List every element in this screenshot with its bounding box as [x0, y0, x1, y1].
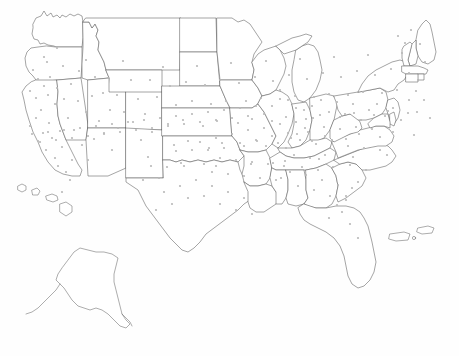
map-data-dot [199, 121, 201, 123]
map-data-dot [263, 127, 265, 129]
map-data-dot [285, 116, 287, 118]
map-data-dot [317, 169, 319, 171]
map-data-dot [225, 100, 227, 102]
map-data-dot [358, 133, 360, 135]
us-map-figure [0, 0, 459, 356]
map-data-dot [404, 42, 406, 44]
map-data-dot [191, 149, 193, 151]
map-data-dot [321, 179, 323, 181]
map-data-dot [390, 68, 392, 70]
map-data-dot [71, 159, 73, 161]
map-data-dot [109, 109, 111, 111]
map-data-dot [79, 127, 81, 129]
map-data-dot [210, 103, 212, 105]
map-data-dot [265, 145, 267, 147]
map-data-dot [175, 115, 177, 117]
map-data-dot [328, 93, 330, 95]
hawaii-outline-group [18, 184, 72, 216]
map-data-dot [407, 112, 409, 114]
map-data-dot [166, 166, 168, 168]
map-data-dot [357, 237, 359, 239]
map-data-dot [91, 95, 93, 97]
map-data-dot [56, 47, 58, 49]
map-data-dot [254, 76, 256, 78]
state-oregon [25, 46, 82, 82]
map-data-dot [143, 119, 145, 121]
map-data-dot [318, 158, 320, 160]
map-data-dot [223, 147, 225, 149]
map-data-dot [352, 103, 354, 105]
map-data-dot [39, 141, 41, 143]
map-data-dot [333, 56, 335, 58]
map-data-dot [35, 97, 37, 99]
map-data-dot [305, 118, 307, 120]
map-data-dot [297, 185, 299, 187]
map-data-dot [191, 100, 193, 102]
map-data-dot [320, 99, 322, 101]
state-arizona [86, 128, 126, 176]
map-data-dot [365, 169, 367, 171]
map-data-dot [345, 199, 347, 201]
map-data-dot [413, 134, 415, 136]
map-data-dot [239, 142, 241, 144]
map-data-dot [71, 137, 73, 139]
map-data-dot [130, 79, 132, 81]
map-data-dot [238, 82, 240, 84]
map-data-dot [183, 165, 185, 167]
map-data-dot [345, 138, 347, 140]
map-data-dot [37, 140, 39, 142]
map-data-dot [149, 79, 151, 81]
map-data-dot [111, 149, 113, 151]
map-data-dot [94, 76, 96, 78]
map-data-dot [275, 179, 277, 181]
map-data-dot [142, 179, 144, 181]
map-data-dot [387, 110, 389, 112]
map-data-dot [340, 76, 342, 78]
state-maine [416, 20, 436, 64]
map-data-dot [59, 130, 61, 132]
map-data-dot [239, 107, 241, 109]
map-data-dot [69, 179, 71, 181]
map-data-dot [319, 114, 321, 116]
map-data-dot [227, 173, 229, 175]
map-data-dot [341, 211, 343, 213]
state-north-dakota [180, 18, 217, 52]
map-data-dot [179, 185, 181, 187]
map-data-dot [396, 89, 398, 91]
map-data-dot [151, 127, 153, 129]
map-data-dot [70, 83, 72, 85]
map-data-dot [211, 185, 213, 187]
map-data-dot [35, 117, 37, 119]
map-data-dot [67, 117, 69, 119]
map-data-dot [353, 112, 355, 114]
map-data-dot [277, 142, 279, 144]
map-data-dot [85, 111, 87, 113]
map-data-dot [150, 165, 152, 167]
map-data-dot [415, 90, 417, 92]
map-data-dot [81, 144, 83, 146]
map-data-dot [419, 43, 421, 45]
map-data-dot [187, 140, 189, 142]
map-data-dot [207, 111, 209, 113]
state-oklahoma [163, 136, 244, 162]
map-data-dot [147, 156, 149, 158]
map-data-dot [392, 131, 394, 133]
map-data-dot [332, 166, 334, 168]
map-data-dot [397, 35, 399, 37]
alaska-aleutian-chain [26, 284, 60, 314]
map-data-dot [272, 162, 274, 164]
map-data-dot [221, 142, 223, 144]
map-data-dot [37, 78, 39, 80]
map-data-dot [384, 115, 386, 117]
map-data-dot [283, 165, 285, 167]
map-data-dot [199, 141, 201, 143]
state-new-mexico [126, 128, 163, 178]
map-data-dot [356, 70, 358, 72]
state-florida [298, 204, 376, 288]
map-data-dot [386, 154, 388, 156]
map-data-dot [376, 103, 378, 105]
map-data-dot [285, 147, 287, 149]
map-data-dot [352, 156, 354, 158]
map-data-dot [196, 65, 198, 67]
map-data-dot [296, 133, 298, 135]
